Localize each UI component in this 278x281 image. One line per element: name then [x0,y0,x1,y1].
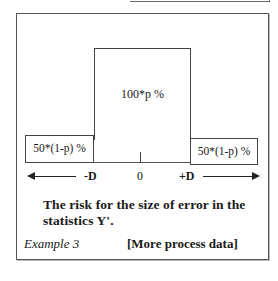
arrow-right-shaft [203,176,253,177]
axis-label-zero: 0 [137,169,143,184]
center-probability-box: 100*p % [94,48,191,140]
left-tail-box: 50*(1-p) % [25,135,94,163]
arrow-left-shaft [32,176,76,177]
arrow-right-icon [252,172,260,180]
axis-label-plus-d: +D [179,169,195,184]
right-tail-box: 50*(1-p) % [190,138,258,165]
previous-figure-frame [130,0,270,2]
figure-caption: The risk for the size of error in the st… [43,197,265,229]
more-process-data-link[interactable]: [More process data] [127,236,238,252]
axis-baseline [93,162,191,163]
example-label: Example 3 [24,236,79,252]
axis-label-minus-d: -D [84,169,97,184]
center-probability-label: 100*p % [95,87,190,102]
zero-tick [140,152,141,162]
